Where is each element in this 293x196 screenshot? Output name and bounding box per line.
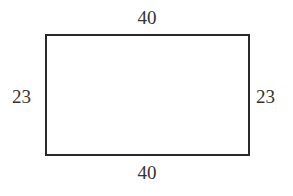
left-side-length-label: 23 [12, 87, 31, 106]
right-side-length-label: 23 [256, 87, 275, 106]
top-side-length-label: 40 [138, 8, 157, 27]
rectangle [45, 34, 250, 156]
bottom-side-length-label: 40 [138, 163, 157, 182]
